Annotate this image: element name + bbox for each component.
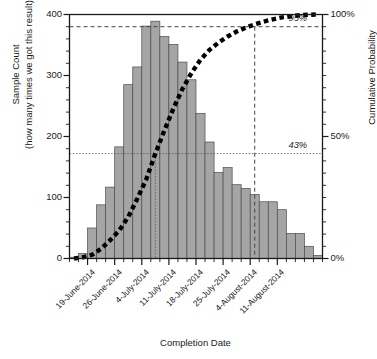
histogram-bar [142,26,151,258]
x-axis-ticks [70,259,323,266]
y-axis-tick-label: 300 [20,69,62,80]
histogram-bar [304,246,313,258]
annotation-label-43-pct: 43% [289,140,308,150]
y2-axis-tick-label: 100% [331,8,355,19]
y-axis-tick-label: 0 [20,252,62,263]
y-axis-right-ticks [323,15,329,259]
histogram-bar [286,233,295,258]
histogram-bar [277,210,286,259]
y2-axis-tick-label: 50% [331,130,350,141]
annotation-label-95-pct: 95% [289,13,308,23]
histogram-bar [106,187,115,258]
histogram-bar [223,168,232,259]
histogram-bar [133,67,142,259]
histogram-bar [259,202,268,259]
histogram-bar [124,85,133,259]
y-axis-tick-label: 400 [20,8,62,19]
histogram-bar [196,113,205,258]
histogram-bar [241,188,250,258]
histogram-bar [214,172,223,258]
histogram-bar [169,44,178,258]
histogram-bar [115,147,124,259]
y2-axis-tick-label: 0% [331,252,345,263]
bars-group [70,21,323,258]
y-axis-left-title: Sample Count (how many times we got this… [10,0,35,180]
y-axis-tick-label: 100 [20,191,62,202]
x-axis-title: Completion Date [69,337,322,348]
histogram-bar [268,202,277,259]
y-axis-left-title-line2: (how many times we got this result) [22,0,35,180]
y-axis-tick-label: 200 [20,130,62,141]
histogram-bar [187,80,196,259]
histogram-bar [295,233,304,258]
histogram-bar [232,185,241,259]
histogram-bar [205,142,214,259]
y-axis-left-ticks [64,15,70,259]
y-axis-left-title-line1: Sample Count [10,0,23,180]
y-axis-right-title: Cumulative Probability [366,0,377,178]
histogram-bar [160,36,169,258]
